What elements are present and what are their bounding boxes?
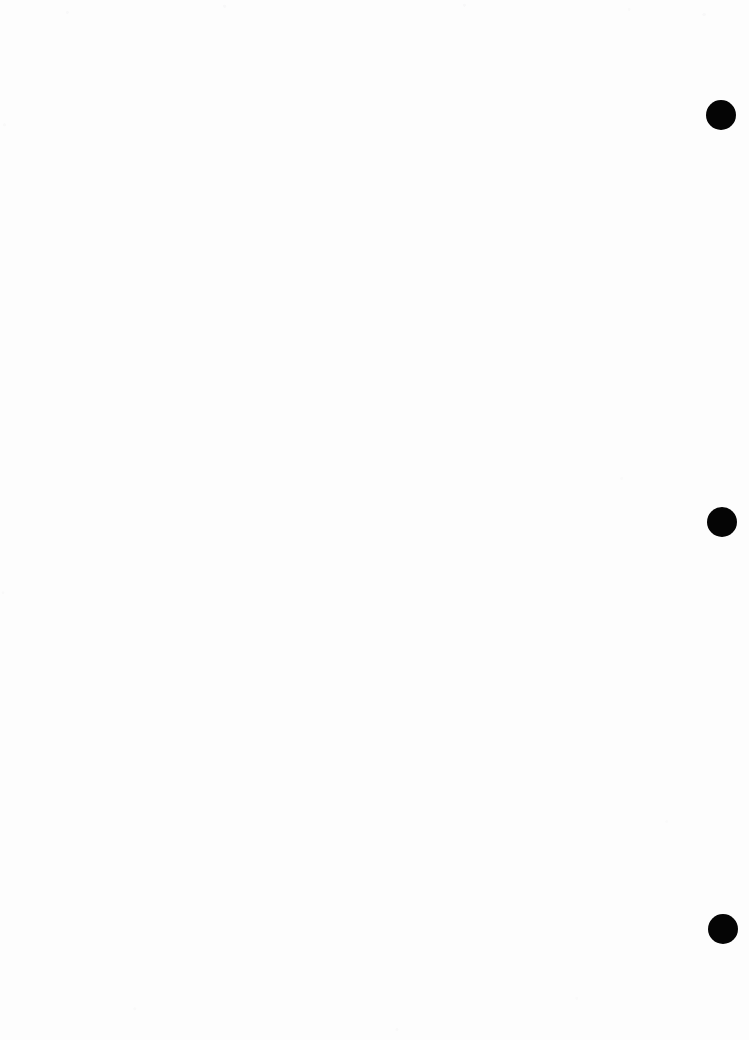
- marker-dot-1[interactable]: [706, 100, 736, 130]
- marker-dot-3[interactable]: [708, 914, 738, 944]
- scan-grain-texture: [0, 0, 749, 1040]
- scanned-page: [0, 0, 749, 1040]
- marker-dot-2[interactable]: [707, 507, 737, 537]
